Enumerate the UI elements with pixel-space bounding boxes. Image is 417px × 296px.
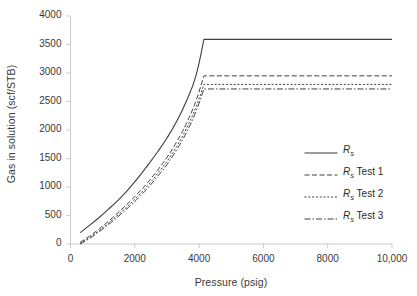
- legend-item-4[interactable]: Rs Test 3: [304, 206, 416, 228]
- legend-line-swatch: [304, 211, 338, 223]
- legend-line-swatch: [304, 167, 338, 179]
- legend-label: Rs Test 1: [343, 166, 383, 180]
- legend-label: Rs Test 3: [343, 210, 383, 224]
- legend-item-1[interactable]: Rs: [304, 140, 416, 162]
- legend-line-swatch: [304, 189, 338, 201]
- x-axis-title: Pressure (psig): [195, 276, 268, 288]
- legend-item-3[interactable]: Rs Test 2: [304, 184, 416, 206]
- legend-label: Rs Test 2: [343, 188, 383, 202]
- x-axis-title-container: Pressure (psig): [70, 272, 392, 290]
- legend-line-swatch: [304, 145, 338, 157]
- gas-in-solution-chart: Gas in solution (scf/STB) 05001000150020…: [0, 0, 417, 296]
- legend-label: Rs: [343, 144, 354, 158]
- chart-legend: RsRs Test 1Rs Test 2Rs Test 3: [304, 140, 416, 228]
- legend-item-2[interactable]: Rs Test 1: [304, 162, 416, 184]
